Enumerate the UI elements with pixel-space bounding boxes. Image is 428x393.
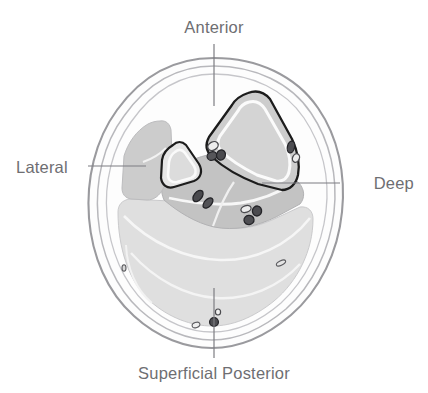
leg-cross-section-illustration <box>0 0 428 393</box>
vessel-dark-medial-2 <box>244 215 255 225</box>
label-anterior: Anterior <box>0 18 428 37</box>
label-deep: Deep <box>374 174 414 193</box>
vessel-lateral-cutaneous <box>122 265 126 271</box>
anatomy-cross-section-figure: Anterior Lateral Deep Superficial Poster… <box>0 0 428 393</box>
vessel-small-outline <box>215 309 220 315</box>
label-superficial-posterior: Superficial Posterior <box>0 364 428 383</box>
label-lateral: Lateral <box>16 158 68 177</box>
